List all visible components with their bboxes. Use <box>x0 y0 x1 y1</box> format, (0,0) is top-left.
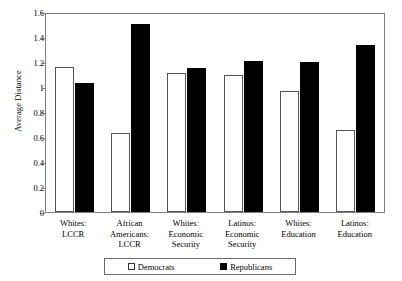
bar-democrats-0 <box>55 67 74 212</box>
bar-chart: Average Distance 00.20.40.60.811.21.41.6… <box>0 0 402 281</box>
bar-democrats-5 <box>336 130 355 212</box>
y-axis-tick-label: 0.8 <box>4 109 44 117</box>
chart-legend: DemocratsRepublicans <box>104 258 296 275</box>
bar-group <box>271 14 327 212</box>
bar-republicans-1 <box>131 24 150 212</box>
legend-label: Democrats <box>138 262 175 272</box>
x-axis-label-line: Americans: <box>101 229 157 240</box>
x-axis-label-line: Latinos: <box>327 218 383 229</box>
y-axis-title: Average Distance <box>13 36 23 166</box>
bar-democrats-1 <box>111 133 130 212</box>
bar-democrats-4 <box>280 91 299 212</box>
x-axis-label: Whites:Education <box>270 218 326 239</box>
y-axis-tick-label: 0 <box>4 209 44 217</box>
x-axis-label-line: Education <box>327 229 383 240</box>
x-axis-label-line: Whites: <box>158 218 214 229</box>
legend-item: Democrats <box>128 262 175 272</box>
bar-group <box>328 14 384 212</box>
x-axis-label-line: Economic <box>214 229 270 240</box>
bar-republicans-3 <box>244 61 263 212</box>
bar-democrats-3 <box>224 75 243 212</box>
x-axis-label-line: Economic <box>158 229 214 240</box>
y-axis-tick-label: 1.2 <box>4 59 44 67</box>
bar-democrats-2 <box>167 73 186 212</box>
x-axis-label-line: Whites: <box>45 218 101 229</box>
x-axis-label-line: Security <box>214 239 270 250</box>
legend-swatch-republicans <box>220 263 227 270</box>
bars-layer <box>46 14 384 212</box>
y-axis-tick-label: 1 <box>4 84 44 92</box>
legend-item: Republicans <box>220 262 272 272</box>
y-axis-tick-mark <box>41 213 45 214</box>
x-axis-label-line: Latinos: <box>214 218 270 229</box>
bar-group <box>159 14 215 212</box>
bar-republicans-2 <box>187 68 206 212</box>
x-axis-label-line: LCCR <box>45 229 101 240</box>
y-axis-tick-label: 0.4 <box>4 159 44 167</box>
bar-group <box>102 14 158 212</box>
x-axis-label: Whites:LCCR <box>45 218 101 239</box>
x-axis-label-group: Whites:LCCRAfricanAmericans:LCCRWhites:E… <box>45 218 385 256</box>
x-axis-label-line: LCCR <box>101 239 157 250</box>
legend-swatch-republicans <box>128 263 135 270</box>
x-axis-label: Latinos:Education <box>327 218 383 239</box>
y-axis-tick-label: 0.2 <box>4 184 44 192</box>
y-axis-tick-label: 0.6 <box>4 134 44 142</box>
legend-label: Republicans <box>230 262 272 272</box>
x-axis-label: Whites:EconomicSecurity <box>158 218 214 250</box>
bar-republicans-0 <box>75 83 94 212</box>
x-axis-label-line: Security <box>158 239 214 250</box>
bar-republicans-5 <box>356 45 375 212</box>
x-axis-label: Latinos:EconomicSecurity <box>214 218 270 250</box>
bar-group <box>215 14 271 212</box>
x-axis-label-line: African <box>101 218 157 229</box>
bar-republicans-4 <box>300 62 319 212</box>
x-axis-label: AfricanAmericans:LCCR <box>101 218 157 250</box>
y-axis-tick-label: 1.4 <box>4 34 44 42</box>
x-axis-label-line: Whites: <box>270 218 326 229</box>
bar-group <box>46 14 102 212</box>
y-axis-tick-label: 1.6 <box>4 9 44 17</box>
x-axis-label-line: Education <box>270 229 326 240</box>
